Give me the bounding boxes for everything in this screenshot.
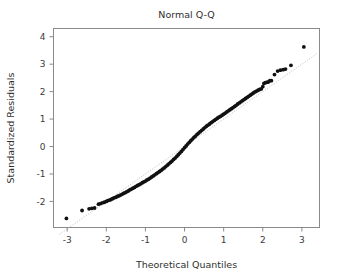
y-tick-label: 3 [40,59,46,69]
y-tick-label: 2 [40,87,46,97]
x-tick-label: -1 [141,235,150,245]
x-axis-label: Theoretical Quantiles [135,259,237,270]
scatter-point [93,206,97,210]
y-tick-label: 1 [40,114,46,124]
scatter-point [284,67,288,71]
x-tick-label: 2 [260,235,266,245]
scatter-point [273,73,277,77]
x-tick-label: 0 [182,235,188,245]
qq-plot-figure: Normal Q-Q -3-2-10123 -2-101234 Theoreti… [0,0,341,280]
chart-title: Normal Q-Q [158,9,214,20]
y-tick-label: 4 [40,32,46,42]
y-tick-label: -1 [37,169,46,179]
y-axis-label: Standardized Residuals [5,73,16,184]
scatter-point [80,209,84,213]
scatter-point [261,85,265,89]
scatter-point [65,217,69,221]
x-tick-label: 1 [221,235,227,245]
x-tick-label: -2 [102,235,111,245]
figure-background [0,0,341,280]
x-tick-label: 3 [299,235,305,245]
x-tick-label: -3 [63,235,72,245]
scatter-point [269,79,273,83]
scatter-point [289,63,293,67]
scatter-point [302,45,306,49]
chart-canvas: Normal Q-Q -3-2-10123 -2-101234 Theoreti… [0,0,341,280]
y-tick-label: 0 [40,142,46,152]
y-tick-label: -2 [37,197,46,207]
